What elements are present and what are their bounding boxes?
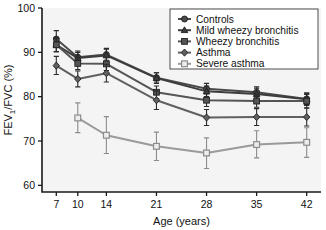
chart-legend: ControlsMild wheezy bronchitisWheezy bro…: [170, 9, 318, 69]
x-tick-label: 42: [301, 198, 313, 210]
data-point-marker: [182, 61, 188, 67]
data-point-marker: [182, 39, 188, 45]
y-tick-label: 90: [23, 46, 35, 58]
x-tick-label: 10: [72, 198, 84, 210]
data-point-marker: [304, 139, 310, 145]
x-tick-label: 28: [201, 198, 213, 210]
y-tick-label: 60: [23, 179, 35, 191]
legend-label: Asthma: [196, 47, 231, 58]
data-point-marker: [254, 98, 260, 104]
legend-label: Mild wheezy bronchitis: [196, 25, 298, 36]
legend-label: Controls: [196, 14, 234, 25]
chart-figure: 607080901007101421283542Age (years)FEV1/…: [0, 0, 326, 230]
data-point-marker: [75, 115, 81, 121]
data-point-marker: [204, 97, 210, 103]
fev1-fvc-by-age-line-chart: 607080901007101421283542Age (years)FEV1/…: [0, 0, 326, 230]
legend-label: Severe asthma: [196, 58, 265, 69]
x-tick-label: 7: [53, 198, 59, 210]
x-tick-label: 21: [151, 198, 163, 210]
data-point-marker: [304, 98, 310, 104]
x-axis-title: Age (years): [153, 215, 210, 227]
data-point-marker: [254, 142, 260, 148]
legend-item-mild-wheezy-bronchitis[interactable]: Mild wheezy bronchitis: [178, 25, 298, 36]
x-tick-label: 35: [251, 198, 263, 210]
data-point-marker: [53, 42, 59, 48]
data-point-marker: [75, 61, 81, 67]
data-point-marker: [103, 132, 109, 138]
data-point-marker: [204, 150, 210, 156]
legend-label: Wheezy bronchitis: [196, 36, 279, 47]
x-tick-label: 14: [101, 198, 113, 210]
data-point-marker: [154, 143, 160, 149]
y-tick-label: 70: [23, 135, 35, 147]
y-tick-label: 80: [23, 90, 35, 102]
y-axis-title: FEV1/FVC (%): [2, 64, 17, 135]
data-point-marker: [182, 16, 188, 22]
y-tick-label: 100: [17, 2, 35, 14]
y-axis-title-text: FEV1/FVC (%): [2, 64, 17, 135]
